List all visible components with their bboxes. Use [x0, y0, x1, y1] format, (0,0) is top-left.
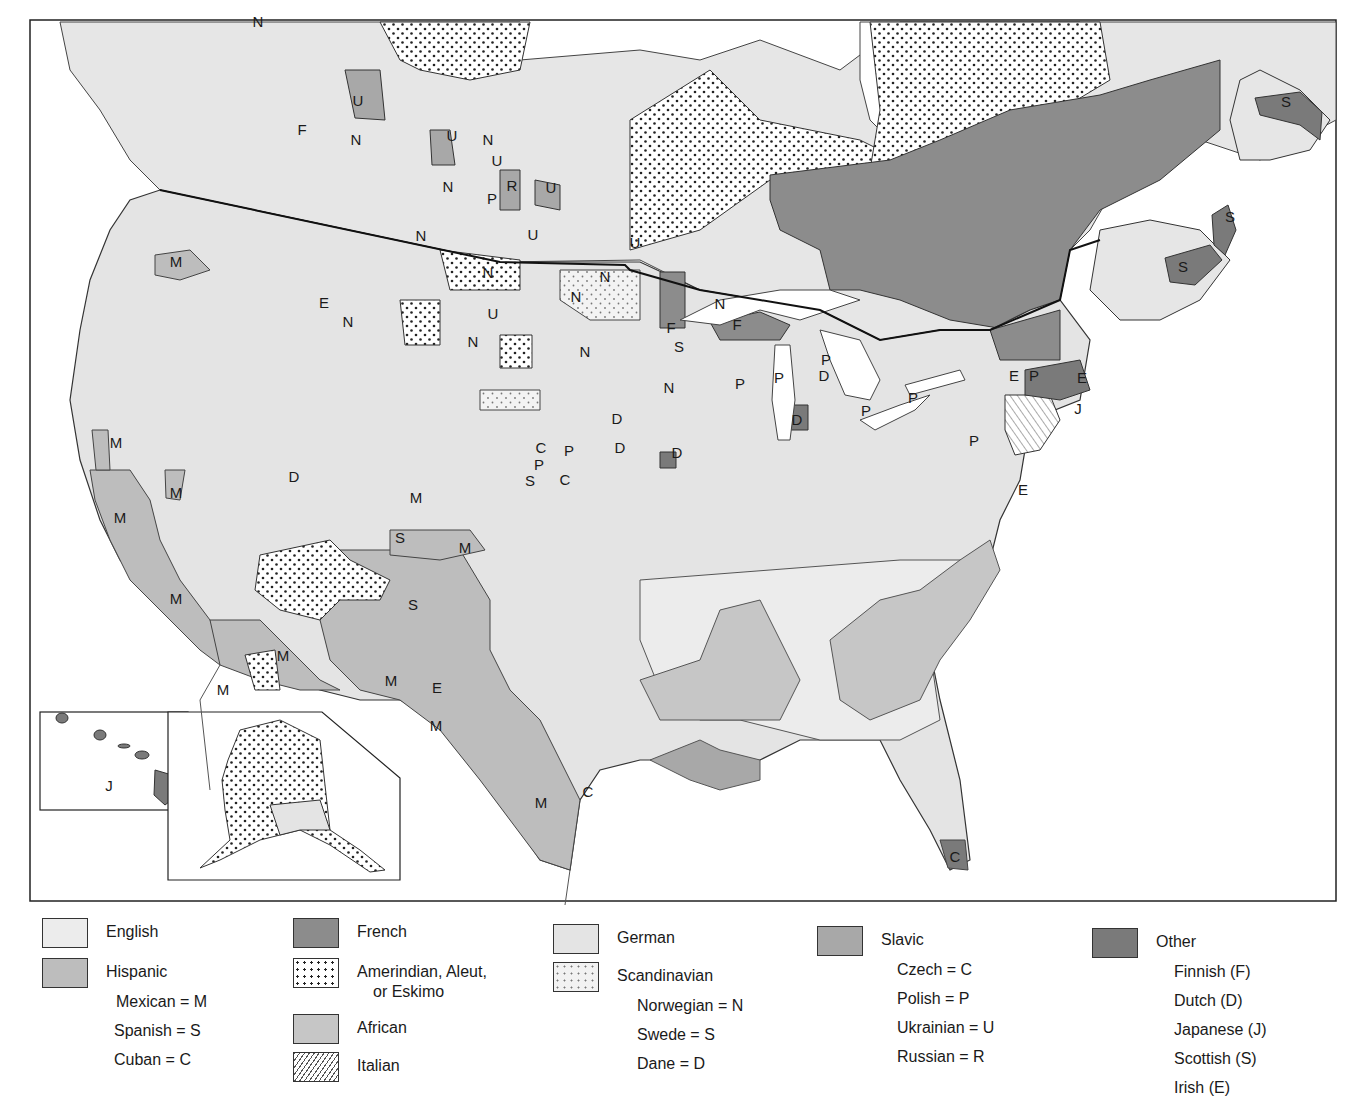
legend-sub: Cuban = C	[114, 1050, 207, 1079]
region-label: N	[580, 343, 591, 360]
legend-item-other: Other	[1092, 928, 1267, 962]
legend-sub: Scottish (S)	[1174, 1049, 1267, 1078]
legend-item-slavic: Slavic	[817, 926, 994, 960]
region-label: S	[525, 472, 535, 489]
legend-sub: Ukrainian = U	[897, 1018, 994, 1047]
region-label: N	[253, 13, 264, 30]
region-label: D	[289, 468, 300, 485]
region-label: U	[546, 179, 557, 196]
legend-label: African	[357, 1018, 407, 1038]
region-label: P	[564, 442, 574, 459]
legend-column-3: German Scandinavian Norwegian = N Swede …	[553, 918, 743, 1083]
scandinavian-sub-list: Norwegian = N Swede = S Dane = D	[553, 996, 743, 1083]
region-label: J	[105, 777, 113, 794]
region-label: F	[297, 121, 306, 138]
region-label: N	[664, 379, 675, 396]
scandinavian-nd	[480, 390, 540, 410]
hawaii-island-oahu	[94, 730, 106, 740]
legend-sub: Dane = D	[637, 1054, 743, 1083]
region-label: E	[432, 679, 442, 696]
legend-label: English	[106, 922, 158, 942]
region-label: N	[351, 131, 362, 148]
legend-sub: Norwegian = N	[637, 996, 743, 1025]
region-label: P	[969, 432, 979, 449]
region-label: U	[528, 226, 539, 243]
region-label: P	[487, 190, 497, 207]
legend-item-scandinavian: Scandinavian	[553, 962, 743, 996]
region-label: E	[1077, 369, 1087, 386]
legend-sub: Finnish (F)	[1174, 962, 1267, 991]
legend-sub: Irish (E)	[1174, 1078, 1267, 1107]
region-label: S	[1225, 208, 1235, 225]
legend-sub: Russian = R	[897, 1047, 994, 1076]
region-label: E	[1009, 367, 1019, 384]
region-label: P	[821, 351, 831, 368]
region-label: D	[792, 411, 803, 428]
region-label: P	[534, 456, 544, 473]
legend-label: French	[357, 922, 407, 942]
hawaii-island-kauai	[56, 713, 68, 723]
legend-sub: Swede = S	[637, 1025, 743, 1054]
slavic-swatch	[817, 926, 863, 956]
english-alaska	[270, 800, 330, 835]
region-label: M	[170, 484, 183, 501]
hawaii-island-maui	[135, 751, 149, 759]
region-label: P	[1029, 367, 1039, 384]
region-label: M	[430, 717, 443, 734]
legend-label: Slavic	[881, 930, 924, 950]
region-label: N	[600, 268, 611, 285]
region-label: N	[343, 313, 354, 330]
legend-sub: Japanese (J)	[1174, 1020, 1267, 1049]
region-label: S	[1281, 93, 1291, 110]
region-label: M	[114, 509, 127, 526]
region-label: R	[507, 177, 518, 194]
legend-sub: Spanish = S	[114, 1021, 207, 1050]
region-label: S	[1178, 258, 1188, 275]
other-swatch	[1092, 928, 1138, 958]
legend-label: Scandinavian	[617, 966, 713, 986]
ethnic-ancestry-map: NUFNUNURPNUNUUMENNUNNNFFSNNNPPPDDPPEPEJP…	[0, 0, 1363, 912]
legend-label: Other	[1156, 932, 1196, 952]
legend-sub: Polish = P	[897, 989, 994, 1018]
english-swatch	[42, 918, 88, 948]
region-label: U	[488, 305, 499, 322]
region-label: N	[416, 227, 427, 244]
amerindian-swatch	[293, 958, 339, 988]
region-label: F	[732, 316, 741, 333]
hispanic-sub-list: Mexican = M Spanish = S Cuban = C	[42, 992, 207, 1079]
region-label: U	[630, 234, 641, 251]
region-label: E	[319, 294, 329, 311]
legend-item-hispanic: Hispanic	[42, 958, 207, 992]
map-legend: English Hispanic Mexican = M Spanish = S…	[0, 918, 1363, 1113]
region-label: N	[443, 178, 454, 195]
region-label: C	[950, 848, 961, 865]
german-swatch	[553, 924, 599, 954]
legend-label: Italian	[357, 1056, 400, 1076]
other-sub-list: Finnish (F) Dutch (D) Japanese (J) Scott…	[1092, 962, 1267, 1107]
region-label: U	[353, 92, 364, 109]
region-label: M	[110, 434, 123, 451]
region-label: E	[1018, 481, 1028, 498]
region-label: M	[535, 794, 548, 811]
region-label: U	[492, 152, 503, 169]
legend-label-line-1: Amerindian, Aleut,	[357, 962, 487, 982]
region-label: J	[1074, 400, 1082, 417]
region-label: U	[447, 127, 458, 144]
french-swatch	[293, 918, 339, 948]
region-label: M	[459, 539, 472, 556]
region-label: P	[774, 369, 784, 386]
legend-column-5: Other Finnish (F) Dutch (D) Japanese (J)…	[1092, 918, 1267, 1107]
legend-sub: Mexican = M	[114, 992, 207, 1021]
region-label: M	[217, 681, 230, 698]
region-label: M	[170, 253, 183, 270]
legend-column-1: English Hispanic Mexican = M Spanish = S…	[42, 918, 207, 1079]
legend-label-line-2: or Eskimo	[357, 982, 487, 1002]
italian-swatch	[293, 1052, 339, 1082]
legend-sub: Dutch (D)	[1174, 991, 1267, 1020]
region-label: D	[612, 410, 623, 427]
region-label: P	[735, 375, 745, 392]
legend-item-german: German	[553, 924, 743, 958]
region-label: D	[819, 367, 830, 384]
region-label: N	[468, 333, 479, 350]
region-label: C	[536, 439, 547, 456]
